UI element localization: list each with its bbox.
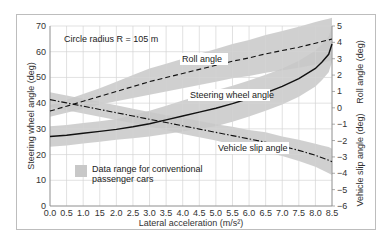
legend-label-line1: Data range for conventional [92,164,203,174]
x-tick: 2.0 [110,208,123,218]
x-tick: 4.0 [176,208,189,218]
x-tick: 8.0 [309,208,322,218]
right-y-tick: −2 [337,136,347,146]
right-y-tick: −1 [337,119,347,129]
x-tick: 0.5 [60,208,73,218]
legend-swatch [75,165,87,177]
x-tick: 3.5 [160,208,173,218]
x-tick: 6.5 [259,208,272,218]
right-y-tick: −6 [337,201,347,211]
x-tick: 5.0 [210,208,223,218]
x-tick: 15 [95,208,105,218]
x-tick: 3.0 [143,208,156,218]
x-tick: 7.5 [293,208,306,218]
right-y-axis-label-slip: Vehicle slip angle (deg) [355,113,365,206]
left-y-tick: 0 [41,201,46,211]
left-y-tick: 30 [36,124,46,134]
line-chart: 0.00.51.0152.02.53.03.54.04.55.05.56.06.… [0,0,380,250]
circle-radius-annotation: Circle radius R = 105 m [64,34,158,44]
x-tick: 4.5 [193,208,206,218]
vehicle-slip-angle-label: Vehicle slip angle [218,143,288,153]
left-y-tick: 50 [36,72,46,82]
left-y-tick: 40 [36,98,46,108]
roll-angle-label: Roll angle [182,54,222,64]
right-y-tick: 4 [337,37,342,47]
left-y-tick: 20 [36,150,46,160]
x-tick: 5.5 [226,208,239,218]
x-axis-label: Lateral acceleration (m/s²) [139,218,244,228]
right-y-axis-ticks: 543210−1−2−3−4−5−6 [332,21,347,211]
right-y-tick: 3 [337,54,342,64]
left-y-tick: 70 [36,21,46,31]
right-y-tick: −5 [337,185,347,195]
right-y-tick: 2 [337,70,342,80]
left-y-tick: 60 [36,47,46,57]
steering-wheel-angle-label: Steering wheel angle [190,90,274,100]
x-tick: 2.5 [127,208,140,218]
right-y-tick: 5 [337,21,342,31]
left-y-tick: 10 [36,175,46,185]
right-y-tick: 0 [337,103,342,113]
left-y-axis-label: Steering wheel angle (deg) [26,62,36,170]
left-y-axis-ticks: 010203040506070 [36,21,46,211]
x-axis-ticks: 0.00.51.0152.02.53.03.54.04.55.05.56.06.… [44,208,339,218]
x-tick: 7.0 [276,208,289,218]
right-y-axis-label-roll: Roll angle (deg) [355,40,365,104]
legend-label-line2: passenger cars [92,174,154,184]
right-y-tick: −4 [337,168,347,178]
right-y-tick: −3 [337,152,347,162]
x-tick: 1.0 [77,208,90,218]
right-y-tick: 1 [337,86,342,96]
x-tick: 6.0 [243,208,256,218]
